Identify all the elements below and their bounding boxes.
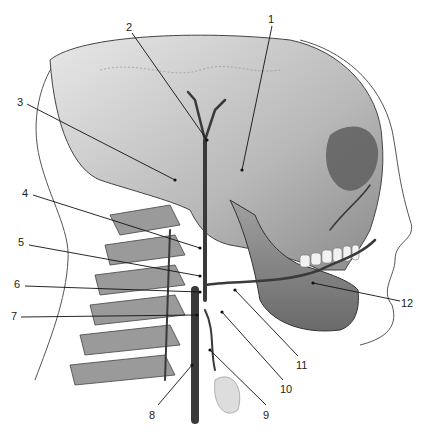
- label-2: 2: [126, 22, 132, 33]
- label-8: 8: [149, 410, 155, 421]
- illustration: [0, 0, 437, 442]
- label-12: 12: [401, 298, 413, 309]
- label-11: 11: [296, 360, 307, 371]
- label-4: 4: [22, 188, 28, 199]
- label-10: 10: [280, 384, 292, 395]
- anatomy-diagram: 1 2 3 4 5 6 7 8 9 10 11 12: [0, 0, 437, 442]
- label-9: 9: [263, 410, 269, 421]
- label-5: 5: [18, 237, 24, 248]
- label-7: 7: [11, 311, 17, 322]
- thyroid: [215, 377, 240, 413]
- label-1: 1: [268, 14, 274, 25]
- label-3: 3: [17, 97, 23, 108]
- label-6: 6: [14, 279, 20, 290]
